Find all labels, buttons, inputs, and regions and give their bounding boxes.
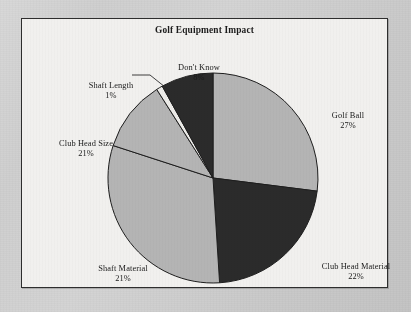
pie-label-shaft-material-name: Shaft Material xyxy=(74,264,172,274)
figure-frame: Golf Equipment Impact xyxy=(21,18,388,288)
pie-label-dont-know-name: Don't Know xyxy=(153,63,245,73)
pie-label-club-head-size: Club Head Size 21% xyxy=(37,139,135,160)
pie-label-dont-know: Don't Know 8% xyxy=(153,63,245,84)
scanned-page: Golf Equipment Impact xyxy=(0,0,411,312)
pie-label-shaft-material-value: 21% xyxy=(74,274,172,284)
pie-label-club-head-size-value: 21% xyxy=(37,149,135,159)
pie-label-club-head-material-name: Club Head Material xyxy=(294,262,411,272)
pie-label-shaft-length-value: 1% xyxy=(70,91,152,101)
pie-label-golf-ball: Golf Ball 27% xyxy=(311,111,385,132)
pie-label-shaft-length-name: Shaft Length xyxy=(70,81,152,91)
pie-label-club-head-material: Club Head Material 22% xyxy=(294,262,411,283)
pie-label-club-head-material-value: 22% xyxy=(294,272,411,282)
pie-slice-golf-ball[interactable] xyxy=(213,73,318,191)
pie-label-shaft-length: Shaft Length 1% xyxy=(70,81,152,102)
pie-label-golf-ball-name: Golf Ball xyxy=(311,111,385,121)
pie-label-golf-ball-value: 27% xyxy=(311,121,385,131)
pie-label-dont-know-value: 8% xyxy=(153,73,245,83)
pie-label-shaft-material: Shaft Material 21% xyxy=(74,264,172,285)
pie-label-club-head-size-name: Club Head Size xyxy=(37,139,135,149)
pie-chart: Don't Know 8% Shaft Length 1% Club Head … xyxy=(22,19,387,287)
